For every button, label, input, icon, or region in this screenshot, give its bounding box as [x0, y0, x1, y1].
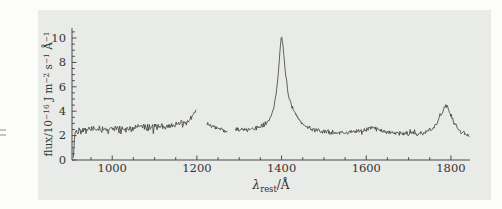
- y-tick-label: 6: [59, 80, 66, 94]
- y-axis-title-part: s: [42, 64, 54, 73]
- y-axis-title: flux/10−16 J m−2 s−1 Å−1: [42, 31, 55, 156]
- x-axis-ticks: [91, 156, 451, 161]
- x-tick-label: 1400: [267, 161, 296, 175]
- spectrum-line-segment: [207, 122, 227, 132]
- x-axis-title-part: /Å: [277, 178, 290, 192]
- x-axis-title-part: λ: [253, 178, 261, 192]
- x-tick-label: 1200: [182, 161, 211, 175]
- x-tick-label: 1600: [352, 161, 381, 175]
- y-axis-title-part: flux/10: [42, 120, 54, 157]
- y-tick-label: 4: [59, 104, 66, 118]
- y-axis-title-part: Å: [42, 42, 54, 53]
- y-axis-title-part: −1: [42, 31, 51, 42]
- x-axis-title: λrest/Å: [253, 178, 290, 193]
- y-axis-title-part: −1: [42, 53, 51, 64]
- x-tick-label: 1800: [436, 161, 465, 175]
- y-tick-label: 2: [59, 128, 66, 142]
- spectrum-plot: 100012001400160018000246810: [0, 0, 502, 209]
- page-edge-artifact: [0, 126, 8, 138]
- y-axis-title-part: J m: [42, 84, 54, 105]
- x-tick-label: 1000: [98, 161, 127, 175]
- axes-frame: [72, 28, 470, 160]
- y-axis-title-part: −16: [42, 104, 51, 120]
- spectrum-line-segment: [235, 37, 469, 137]
- figure: 100012001400160018000246810 flux/10−16 J…: [0, 0, 502, 209]
- y-tick-label: 8: [59, 55, 66, 69]
- spectrum-line-segment: [73, 110, 196, 158]
- y-tick-label: 0: [59, 153, 66, 167]
- y-axis-title-part: −2: [42, 73, 51, 84]
- x-axis-title-part: rest: [260, 184, 277, 194]
